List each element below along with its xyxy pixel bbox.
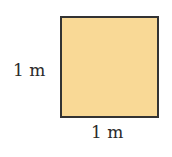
- side-length-label-left: 1 m: [13, 61, 45, 79]
- unit-square: [60, 16, 159, 118]
- side-length-label-bottom: 1 m: [91, 123, 123, 141]
